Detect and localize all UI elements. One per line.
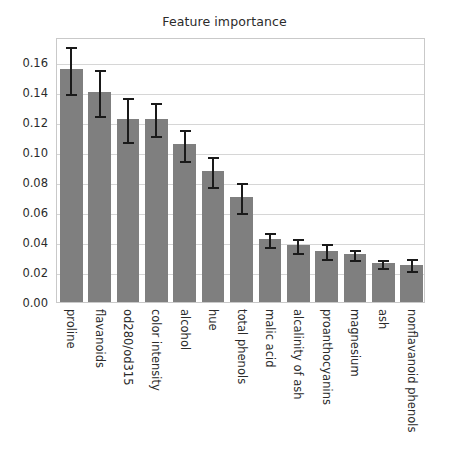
plot-area: [56, 38, 425, 303]
error-bar-cap-top: [151, 103, 162, 105]
error-bar-cap-top: [180, 130, 191, 132]
error-bar-line: [70, 48, 72, 95]
error-bar-line: [184, 131, 186, 163]
error-bar-cap-bottom: [378, 268, 389, 270]
error-bar-cap-bottom: [293, 253, 304, 255]
error-bar-cap-bottom: [350, 260, 361, 262]
x-tick-label: flavanoids: [93, 309, 105, 368]
x-tick-label: od280/od315: [121, 309, 133, 385]
error-bar-cap-top: [350, 250, 361, 252]
y-tick-label: 0.08: [2, 176, 48, 190]
bar: [202, 171, 225, 302]
bar: [88, 92, 111, 302]
x-tick-label: malic acid: [263, 309, 275, 367]
figure-canvas: Feature importance 0.000.020.040.060.080…: [0, 0, 449, 459]
x-tick-label: color intensity: [150, 309, 162, 391]
error-bar-cap-top: [407, 259, 418, 261]
error-bar-cap-top: [237, 183, 248, 185]
error-bar-line: [127, 99, 129, 143]
bar: [145, 119, 168, 302]
error-bar-line: [99, 71, 101, 118]
bar: [60, 69, 83, 302]
x-tick-label: alcohol: [178, 309, 190, 350]
error-bar-cap-bottom: [208, 187, 219, 189]
error-bar-cap-bottom: [151, 136, 162, 138]
error-bar-line: [155, 104, 157, 137]
error-bar-cap-bottom: [407, 271, 418, 273]
error-bar-line: [212, 158, 214, 188]
y-tick-label: 0.12: [2, 116, 48, 130]
y-tick-label: 0.02: [2, 266, 48, 280]
error-bar-cap-bottom: [95, 116, 106, 118]
x-tick-label: hue: [206, 309, 218, 331]
y-tick-label: 0.16: [2, 56, 48, 70]
y-tick-label: 0.00: [2, 296, 48, 310]
error-bar-cap-top: [378, 260, 389, 262]
bar: [117, 119, 140, 302]
y-tick-label: 0.14: [2, 86, 48, 100]
bars-layer: [57, 39, 424, 302]
error-bar-cap-bottom: [180, 161, 191, 163]
error-bar-cap-bottom: [66, 94, 77, 96]
error-bar-cap-bottom: [123, 142, 134, 144]
x-tick-label: alcalinity of ash: [292, 309, 304, 400]
x-tick-label: magnesium: [348, 309, 360, 377]
error-bar-cap-bottom: [265, 247, 276, 249]
error-bar-line: [241, 184, 243, 214]
x-tick-label: proanthocyanins: [320, 309, 332, 405]
chart-title: Feature importance: [0, 14, 449, 29]
error-bar-cap-top: [208, 157, 219, 159]
y-tick-label: 0.06: [2, 206, 48, 220]
bar: [173, 144, 196, 302]
x-tick-label: total phenols: [235, 309, 247, 384]
error-bar-cap-bottom: [322, 259, 333, 261]
error-bar-cap-top: [322, 244, 333, 246]
error-bar-cap-top: [293, 239, 304, 241]
error-bar-cap-top: [265, 233, 276, 235]
error-bar-cap-top: [66, 47, 77, 49]
x-tick-label: ash: [377, 309, 389, 329]
error-bar-line: [269, 234, 271, 248]
error-bar-line: [326, 245, 328, 260]
x-tick-label: proline: [64, 309, 76, 349]
x-tick-label: nonflavanoid phenols: [405, 309, 417, 432]
y-tick-label: 0.04: [2, 236, 48, 250]
error-bar-line: [297, 240, 299, 254]
y-tick-label: 0.10: [2, 146, 48, 160]
error-bar-cap-top: [95, 70, 106, 72]
x-axis-tick-labels: prolineflavanoidsod280/od315color intens…: [56, 306, 425, 456]
error-bar-cap-bottom: [237, 213, 248, 215]
error-bar-cap-top: [123, 98, 134, 100]
